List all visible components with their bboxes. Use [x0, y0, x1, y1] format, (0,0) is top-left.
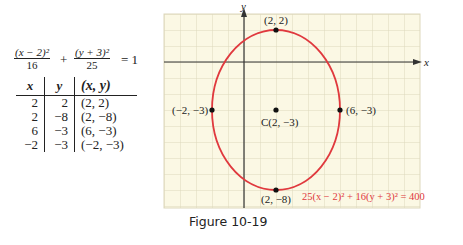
label-bottom: (2, −8): [261, 193, 291, 206]
point-center: [273, 107, 278, 112]
label-right: (6, −3): [346, 104, 376, 117]
y-axis-label: y: [240, 0, 246, 12]
label-center: C(2, −3): [261, 116, 299, 129]
point-left: [209, 107, 214, 112]
label-top: (2, 2): [264, 14, 288, 27]
ellipse-graph: y x (2, 2) (2, −8) (−2, −3) (6, −3) C(2,…: [0, 0, 463, 245]
point-top: [273, 27, 278, 32]
point-right: [337, 107, 342, 112]
figure-caption: Figure 10-19: [189, 214, 267, 229]
label-left: (−2, −3): [172, 104, 209, 117]
point-bottom: [273, 187, 278, 192]
x-axis-label: x: [423, 56, 429, 68]
curve-equation-label: 25(x − 2)² + 16(y + 3)² = 400: [302, 191, 425, 203]
